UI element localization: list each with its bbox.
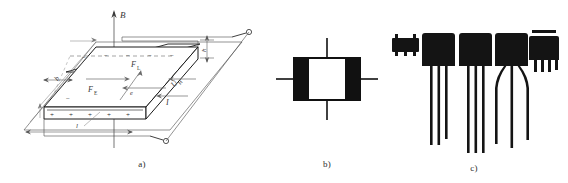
length-label: l [76, 122, 78, 130]
width-label-group: b [53, 74, 62, 82]
package-sip [529, 30, 559, 72]
upper-lead-diagonal [232, 33, 246, 37]
symbol-right-contact [345, 59, 359, 99]
sip-body [529, 36, 559, 60]
to92-b-lead [482, 66, 485, 153]
width-label: b [53, 74, 62, 82]
panel-c-component-packages: c) [380, 0, 568, 183]
thickness-label-group: h [200, 48, 208, 52]
lower-lead-wire [44, 119, 150, 136]
lower-lead-diagonal [150, 136, 163, 140]
thickness-label: h [200, 48, 208, 52]
electron-label: e [130, 89, 133, 96]
smd-body [392, 38, 419, 52]
guide-arrowhead-top [91, 38, 97, 43]
sip-lead [541, 60, 544, 72]
panel-a-hall-principle: − − − − − − + + + + + B F L F E e [0, 0, 284, 183]
plate-front-face [44, 107, 146, 119]
hall-principle-drawing: − − − − − − + + + + + B F L F E e [0, 0, 284, 183]
smd-lead [413, 52, 416, 56]
charge-minus: − [82, 54, 86, 62]
charge-minus: − [148, 52, 152, 60]
package-to92-a [422, 33, 455, 145]
panel-a-caption: a) [0, 159, 284, 169]
electric-force-label: F [87, 85, 93, 94]
to92-a-lead [438, 66, 441, 145]
smd-lead [395, 52, 398, 56]
charge-minus-front: − [66, 95, 70, 103]
to92-b-body [459, 33, 492, 66]
sip-lead [534, 60, 537, 72]
package-to92-spread [495, 33, 529, 148]
package-smd [392, 34, 419, 56]
smd-lead [413, 34, 416, 38]
charge-minus: − [104, 52, 108, 60]
panel-b-circuit-symbol: b) [262, 0, 392, 183]
symbol-left-contact [295, 59, 309, 99]
charge-plus: + [88, 111, 92, 119]
to92-a-lead [430, 66, 433, 145]
to92-spread-lead-mid [511, 66, 514, 148]
sip-top-tab [532, 30, 556, 33]
to92-spread-lead-right [518, 66, 529, 140]
to92-a-lead [445, 66, 448, 139]
smd-lead [395, 34, 398, 38]
panel-b-caption: b) [262, 159, 392, 169]
to92-spread-body [495, 33, 528, 66]
sip-lead [548, 60, 551, 72]
charge-plus: + [126, 111, 130, 119]
charge-plus: + [107, 111, 111, 119]
package-to92-b [459, 33, 492, 153]
hall-effect-figure: − − − − − − + + + + + B F L F E e [0, 0, 568, 183]
charge-plus: + [69, 111, 73, 119]
charge-minus: − [170, 52, 174, 60]
panel-c-caption: c) [380, 163, 568, 173]
lorentz-force-label: F [130, 60, 136, 69]
hall-element-symbol [262, 0, 392, 183]
hall-sensor-packages-photo [380, 0, 568, 183]
to92-spread-lead-left [495, 66, 506, 144]
charge-plus: + [50, 111, 54, 119]
to92-b-lead [467, 66, 470, 153]
current-label: I [165, 98, 169, 107]
smd-lead [404, 52, 407, 56]
to92-b-lead [475, 66, 478, 153]
charge-minus: − [126, 52, 130, 60]
magnetic-field-label: B [120, 10, 126, 20]
to92-a-body [422, 33, 455, 66]
sip-lead [555, 60, 558, 70]
